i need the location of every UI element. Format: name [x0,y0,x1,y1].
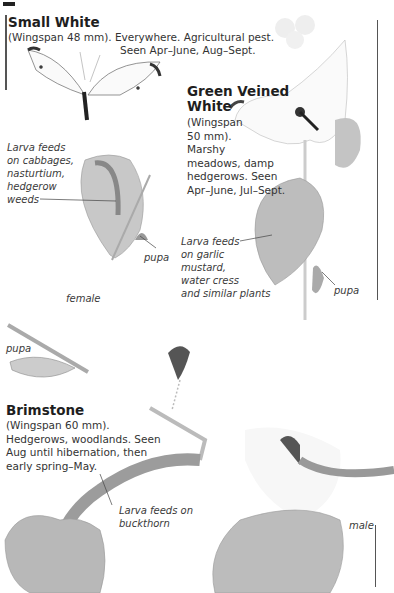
caption-line: mustard, [181,261,270,274]
brimstone-butterfly-icon [213,428,394,593]
desc-line: hedgerows. Seen [187,170,285,184]
desc-line: Hedgerows, woodlands. Seen [6,433,161,447]
small-white-pupa-label-2: pupa [6,342,31,355]
small-white-butterfly-icon [28,48,160,120]
caption-line: on cabbages, [7,154,74,167]
title-line: White [187,99,289,114]
brimstone-description: (Wingspan 60 mm). Hedgerows, woodlands. … [6,419,161,473]
species-title-small-white: Small White [8,15,100,30]
brimstone-male-label: male [349,519,374,532]
desc-line: Aug until hibernation, then [6,446,161,460]
green-veined-white-pupa-label: pupa [334,284,359,297]
caption-line: water cress [181,274,270,287]
right-margin-rule [377,20,378,300]
desc-line: meadows, damp [187,157,285,171]
caption-line: buckthorn [119,517,193,530]
desc-line: 50 mm). [187,130,285,144]
right-margin-rule-lower [375,525,376,587]
caption-line: weeds [7,193,74,206]
caption-line: Larva feeds [181,235,270,248]
small-white-pupa-label: pupa [144,251,169,264]
left-margin-rule [5,15,7,90]
species-title-brimstone: Brimstone [6,403,84,418]
caption-line: and similar plants [181,287,270,300]
small-white-pupa-icon [8,325,190,410]
caption-line: on garlic [181,248,270,261]
desc-line: Marshy [187,143,285,157]
caption-line: Larva feeds [7,141,74,154]
small-white-description-line2: Seen Apr–June, Aug–Sept. [120,44,256,58]
caption-line: Larva feeds on [119,504,193,517]
small-white-description-line1: (Wingspan 48 mm). Everywhere. Agricultur… [8,31,274,45]
desc-line: (Wingspan 60 mm). [6,419,161,433]
caption-line: nasturtium, [7,167,74,180]
desc-line: early spring–May. [6,460,161,474]
corner-mark-icon [3,2,15,6]
caption-line: hedgerow [7,180,74,193]
desc-line: Apr–June, Jul–Sept. [187,184,285,198]
green-veined-white-larva-caption: Larva feeds on garlic mustard, water cre… [181,235,270,300]
small-white-female-label: female [66,292,100,305]
title-line: Green Veined [187,84,289,99]
green-veined-white-description: (Wingspan 50 mm). Marshy meadows, damp h… [187,116,285,197]
species-title-green-veined-white: Green Veined White [187,84,289,114]
small-white-larva-caption: Larva feeds on cabbages, nasturtium, hed… [7,141,74,206]
desc-line: (Wingspan [187,116,285,130]
brimstone-larva-caption: Larva feeds on buckthorn [119,504,193,530]
